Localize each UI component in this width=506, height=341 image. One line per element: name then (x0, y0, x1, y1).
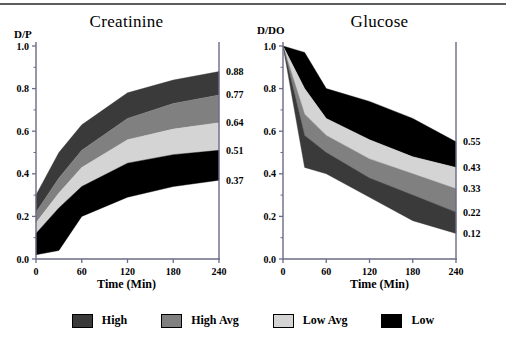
right-axis-value-label: 0.55 (463, 136, 481, 147)
plot-area-glucose: 0.00.20.40.60.81.00601201802400.550.430.… (253, 0, 506, 300)
legend-item-low: Low (381, 313, 434, 328)
legend-swatch-high (72, 314, 93, 328)
right-axis-value-label: 0.77 (226, 89, 244, 100)
y-tick-label: 0.8 (264, 83, 277, 94)
legend-label-low-avg: Low Avg (303, 313, 348, 328)
x-tick-label: 120 (362, 266, 377, 277)
legend-label-low: Low (411, 313, 434, 328)
right-axis-value-label: 0.12 (463, 228, 481, 239)
y-tick-label: 0.2 (17, 211, 30, 222)
legend-label-high-avg: High Avg (191, 313, 238, 328)
y-tick-label: 0.4 (17, 168, 30, 179)
legend-swatch-high-avg (161, 314, 182, 328)
chart-panel-creatinine: Creatinine D/P 0.00.20.40.60.81.00601201… (0, 0, 253, 300)
legend-label-high: High (102, 313, 127, 328)
x-tick-label: 180 (166, 266, 181, 277)
y-tick-label: 0.0 (264, 254, 277, 265)
y-tick-label: 0.8 (17, 83, 30, 94)
right-axis-value-label: 0.88 (226, 66, 244, 77)
x-tick-label: 120 (120, 266, 135, 277)
x-tick-label: 240 (449, 266, 464, 277)
legend-item-low-avg: Low Avg (273, 313, 348, 328)
y-tick-label: 1.0 (17, 41, 30, 52)
x-tick-label: 0 (281, 266, 286, 277)
x-axis-label-creatinine: Time (Min) (0, 277, 253, 292)
right-axis-value-label: 0.22 (463, 207, 481, 218)
y-tick-label: 0.6 (17, 126, 30, 137)
legend-item-high: High (72, 313, 127, 328)
y-tick-label: 0.0 (17, 254, 30, 265)
chart-legend: High High Avg Low Avg Low (0, 300, 506, 341)
x-tick-label: 0 (34, 266, 39, 277)
y-tick-label: 0.2 (264, 211, 277, 222)
right-axis-value-label: 0.33 (463, 183, 481, 194)
legend-swatch-low-avg (273, 314, 294, 328)
x-tick-label: 60 (77, 266, 87, 277)
chart-panel-glucose: Glucose D/DO 0.00.20.40.60.81.0060120180… (253, 0, 506, 300)
y-tick-label: 1.0 (264, 41, 277, 52)
legend-item-high-avg: High Avg (161, 313, 238, 328)
right-axis-value-label: 0.64 (226, 117, 244, 128)
y-tick-label: 0.4 (264, 168, 277, 179)
right-axis-value-label: 0.51 (226, 145, 244, 156)
plot-area-creatinine: 0.00.20.40.60.81.00601201802400.880.770.… (0, 0, 253, 300)
right-axis-value-label: 0.37 (226, 175, 244, 186)
right-axis-value-label: 0.43 (463, 162, 481, 173)
plot-svg-creatinine: 0.00.20.40.60.81.00601201802400.880.770.… (0, 0, 253, 300)
legend-swatch-low (381, 314, 402, 328)
x-tick-label: 240 (212, 266, 227, 277)
x-tick-label: 60 (321, 266, 331, 277)
plot-svg-glucose: 0.00.20.40.60.81.00601201802400.550.430.… (253, 0, 506, 300)
x-tick-label: 180 (405, 266, 420, 277)
y-tick-label: 0.6 (264, 126, 277, 137)
x-axis-label-glucose: Time (Min) (253, 277, 506, 292)
figure-canvas: Creatinine D/P 0.00.20.40.60.81.00601201… (0, 0, 506, 341)
